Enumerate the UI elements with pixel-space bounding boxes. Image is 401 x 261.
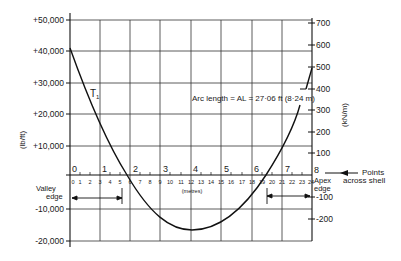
metre-labels: 012 345 678 91011 121314 151617 181920 2… [71, 179, 314, 185]
curve-label: T1 [90, 88, 100, 100]
svg-text:17: 17 [239, 179, 245, 185]
point-label: 4 [193, 164, 198, 174]
svg-text:8: 8 [148, 179, 151, 185]
svg-text:12: 12 [188, 179, 194, 185]
point-label: 3 [163, 164, 168, 174]
right-axis-label: (kN/m) [340, 103, 349, 127]
left-axis-label: (lb/ft) [18, 131, 27, 150]
valley-dimension-arrow [72, 188, 122, 204]
svg-text:15: 15 [218, 179, 224, 185]
svg-text:14: 14 [208, 179, 214, 185]
tick-label: 300 [316, 105, 330, 115]
point-label: 0 [72, 164, 77, 174]
svg-text:19: 19 [259, 179, 265, 185]
svg-text:13: 13 [198, 179, 204, 185]
tick-label: +10,000 [33, 141, 64, 151]
svg-text:9: 9 [158, 179, 161, 185]
svg-text:4: 4 [108, 179, 111, 185]
svg-text:2: 2 [88, 179, 91, 185]
svg-text:11: 11 [178, 179, 184, 185]
svg-text:5: 5 [118, 179, 121, 185]
svg-text:0: 0 [71, 179, 74, 185]
point-label: 7 [285, 164, 290, 174]
svg-text:6: 6 [128, 179, 131, 185]
valley-edge-label-2: edge [46, 192, 63, 201]
svg-text:20: 20 [269, 179, 275, 185]
tick-label: +30,000 [33, 78, 64, 88]
svg-text:3: 3 [98, 179, 101, 185]
tick-label: 400 [316, 84, 330, 94]
tick-label: 200 [316, 127, 330, 137]
point-label: 8 [314, 165, 319, 175]
metres-label: (metres) [182, 188, 203, 194]
tick-label: +50,000 [33, 15, 64, 25]
tick-label: -20,000 [35, 236, 64, 246]
points-label-2: across shell [343, 176, 385, 185]
point-label: 5 [224, 164, 229, 174]
left-ticks [66, 20, 70, 241]
tick-label: 700 [316, 18, 330, 28]
point-label: 6 [254, 164, 259, 174]
curve-t1 [70, 48, 300, 230]
svg-text:1: 1 [78, 179, 81, 185]
svg-text:7: 7 [138, 179, 141, 185]
svg-text:10: 10 [167, 179, 173, 185]
tick-label: 600 [316, 40, 330, 50]
point-label: 1 [102, 164, 107, 174]
tick-label: -200 [316, 214, 333, 224]
right-tick-labels: 700 600 500 400 300 200 100 -100 -200 [316, 18, 333, 224]
left-tick-labels: +50,000 +40,000 +30,000 +20,000 +10,000 … [33, 15, 64, 246]
tick-label: -10,000 [35, 204, 64, 214]
apex-edge-label-2: edge [314, 184, 331, 193]
svg-text:23: 23 [299, 179, 305, 185]
tick-label: 500 [316, 62, 330, 72]
tick-label: -100 [316, 192, 333, 202]
tick-label: 100 [316, 148, 330, 158]
apex-dimension-arrow [267, 188, 310, 204]
svg-text:21: 21 [279, 179, 285, 185]
grid-verticals [100, 20, 282, 241]
curve-t1-continuation [306, 68, 312, 89]
stress-distribution-chart: +50,000 +40,000 +30,000 +20,000 +10,000 … [0, 0, 401, 261]
svg-text:18: 18 [249, 179, 255, 185]
svg-text:22: 22 [289, 179, 295, 185]
point-label: 2 [133, 164, 138, 174]
tick-label: +40,000 [33, 46, 64, 56]
arc-length-annotation: Arc length = AL = 27·06 ft (8·24 m) [192, 94, 315, 103]
svg-text:16: 16 [228, 179, 234, 185]
tick-label: +20,000 [33, 109, 64, 119]
